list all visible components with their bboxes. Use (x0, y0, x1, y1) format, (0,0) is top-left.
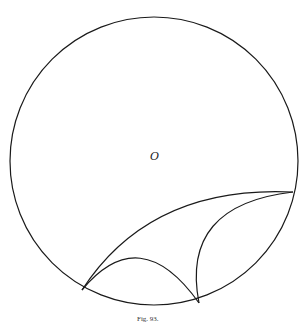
lower-small-arc (82, 258, 199, 303)
center-label: O (150, 150, 159, 163)
figure-caption: Fig. 93. (137, 315, 159, 323)
figure-diagram: O Fig. 93. (0, 0, 303, 328)
large-arc (82, 192, 293, 290)
right-arc (196, 192, 293, 303)
